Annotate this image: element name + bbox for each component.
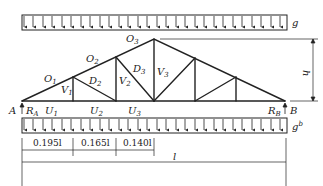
height-label: h — [301, 70, 312, 76]
span-label: l — [173, 151, 176, 162]
svg-text:O1: O1 — [44, 73, 57, 86]
svg-text:U2: U2 — [90, 105, 103, 118]
bottom-load-label: gb — [292, 120, 303, 132]
segment-2-label: 0.165l — [81, 138, 110, 148]
diagonal-right-1 — [154, 58, 195, 101]
bottom-load-gb — [22, 118, 287, 133]
segment-3-label: 0.140l — [123, 138, 152, 148]
svg-text:D3: D3 — [132, 63, 146, 76]
top-load-g — [22, 15, 287, 30]
segment-1-label: 0.195l — [33, 138, 62, 148]
reaction-b-arrow — [283, 103, 287, 114]
diagonal-right-2 — [195, 77, 236, 101]
top-load-label: g — [292, 17, 298, 28]
reaction-a-arrow — [20, 103, 24, 114]
support-a-label: A — [8, 105, 16, 116]
support-b-label: B — [289, 105, 297, 116]
truss-diagram: g O1 O2 O3 V1 V2 V3 D2 D3 U1 U2 U3 A RA … — [0, 0, 323, 186]
reaction-a-label: RA — [25, 105, 39, 118]
svg-text:V3: V3 — [157, 66, 169, 79]
svg-text:V2: V2 — [119, 75, 131, 88]
svg-text:V1: V1 — [61, 84, 73, 97]
reaction-b-label: RB — [267, 105, 281, 118]
svg-text:O3: O3 — [126, 33, 139, 46]
svg-text:U3: U3 — [128, 105, 141, 118]
svg-text:O2: O2 — [86, 53, 99, 66]
svg-text:U1: U1 — [45, 105, 58, 118]
member-labels: O1 O2 O3 V1 V2 V3 D2 D3 U1 U2 U3 — [44, 33, 169, 118]
